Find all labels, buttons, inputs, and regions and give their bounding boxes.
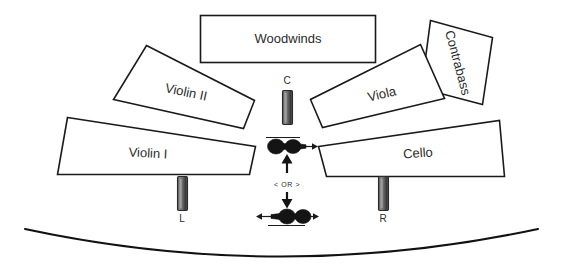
- stage-front-arc: [25, 229, 538, 257]
- mic-center-highlight: [285, 93, 287, 122]
- cello-label: Cello: [403, 144, 434, 161]
- stereo-pair-narrow[interactable]: [266, 138, 318, 155]
- stereo-pair-wide-arrowhead-left: [256, 213, 262, 220]
- mic-center-body: [283, 91, 293, 125]
- stereo-pair-wide-arrowhead-right: [313, 213, 319, 220]
- mic-left-label: L: [179, 213, 185, 224]
- section-woodwinds[interactable]: Woodwinds: [201, 16, 376, 63]
- option-arrow-down: [282, 192, 293, 209]
- or-label: < OR >: [274, 181, 300, 188]
- stereo-pair-narrow-arrowhead: [312, 143, 318, 150]
- mic-center-label: C: [283, 75, 290, 86]
- section-violin-1[interactable]: Violin I: [58, 118, 256, 175]
- mic-right-highlight: [381, 179, 383, 208]
- option-arrow-up: [282, 154, 293, 173]
- mic-right-label: R: [379, 213, 386, 224]
- diagram-canvas: Woodwinds Contrabass Viola Violin II Vio…: [0, 0, 562, 268]
- mic-left-highlight: [180, 179, 182, 208]
- mic-right[interactable]: R: [379, 177, 389, 224]
- orchestra-seating-diagram: Woodwinds Contrabass Viola Violin II Vio…: [0, 0, 562, 268]
- violin-1-label: Violin I: [128, 144, 168, 161]
- mic-left[interactable]: L: [178, 177, 188, 224]
- mic-center[interactable]: C: [283, 75, 293, 125]
- section-cello[interactable]: Cello: [319, 121, 505, 177]
- stereo-pair-wide-capsule-right: [291, 210, 311, 224]
- mic-right-body: [379, 177, 389, 211]
- stereo-pair-wide[interactable]: [256, 209, 319, 226]
- woodwinds-label: Woodwinds: [255, 31, 322, 46]
- mic-left-body: [178, 177, 188, 211]
